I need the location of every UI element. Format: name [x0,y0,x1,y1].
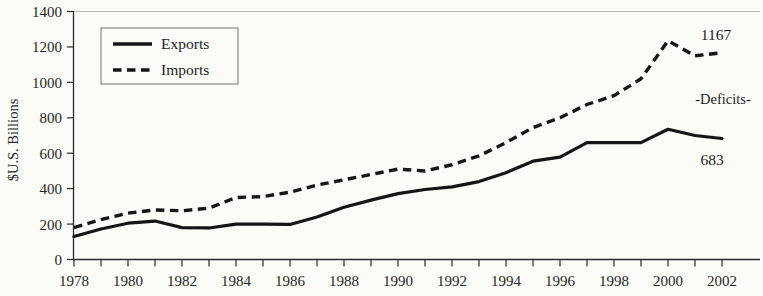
y-tick-label: 600 [40,146,63,162]
x-tick-label: 1996 [545,273,576,289]
x-tick-label: 1992 [437,273,467,289]
y-tick-label: 0 [55,252,63,268]
annotation-imports-value: 1167 [701,26,732,43]
x-tick-label: 2002 [707,273,737,289]
y-axis-title: $U.S. Billions [5,98,21,181]
chart-page: 0200400600800100012001400 19781980198219… [0,0,763,296]
x-tick-label: 1994 [491,273,522,289]
x-tick-label: 1998 [599,273,629,289]
trade-line-chart: 0200400600800100012001400 19781980198219… [0,0,763,296]
x-tick-label: 1986 [275,273,306,289]
x-tick-label: 1980 [113,273,143,289]
x-tick-label: 1984 [221,273,252,289]
annotation-deficits-label: -Deficits- [695,91,751,107]
x-tick-label: 1978 [59,273,89,289]
y-tick-label: 800 [40,110,63,126]
legend-label-imports: Imports [161,61,209,78]
chart-legend: Exports Imports [101,28,238,84]
y-tick-label: 1000 [32,75,62,91]
y-tick-label: 1400 [32,4,62,20]
y-tick-label: 400 [40,181,63,197]
y-tick-label: 200 [40,217,63,233]
annotation-exports-value: 683 [700,151,724,168]
x-tick-label: 1988 [329,273,359,289]
y-tick-label: 1200 [32,39,62,55]
x-tick-label: 2000 [653,273,683,289]
x-tick-label: 1990 [383,273,413,289]
x-tick-label: 1982 [167,273,197,289]
legend-label-exports: Exports [161,35,209,52]
